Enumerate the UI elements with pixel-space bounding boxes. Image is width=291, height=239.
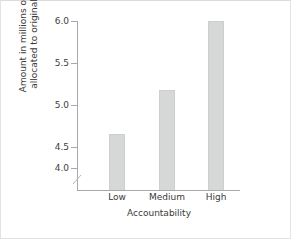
y-tick-label-4-5: 4.5 (37, 143, 69, 152)
y-tick-label-6-0: 6.0 (37, 17, 69, 26)
y-axis-title-line-1: Amount in millions of dollars (17, 0, 28, 92)
y-tick-label-5-0: 5.0 (37, 101, 69, 110)
chart-figure: Amount in millions of dollars allocated … (0, 0, 291, 239)
x-axis-line (77, 190, 240, 191)
y-axis-title-line-2: allocated to original choice (29, 0, 40, 89)
x-axis-title: Accountability (78, 208, 240, 218)
plot-area (78, 15, 240, 190)
y-tick-label-5-5: 5.5 (37, 59, 69, 68)
bar-low (109, 134, 125, 190)
y-tick-label-4-0: 4.0 (37, 164, 69, 173)
bar-high (208, 21, 224, 190)
bar-medium (159, 90, 175, 190)
x-tick-label-high: High (186, 193, 246, 203)
